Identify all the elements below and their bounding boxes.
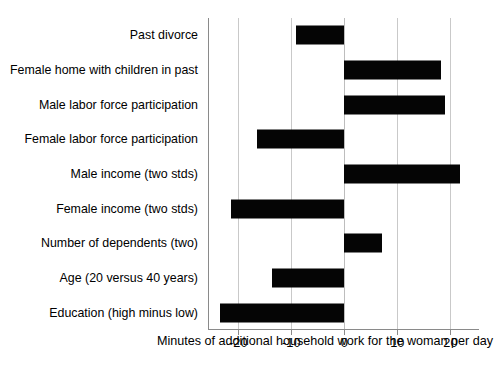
category-label: Age (20 versus 40 years) [60,272,198,285]
bar [272,269,344,288]
category-label: Male labor force participation [39,98,198,111]
bar [344,165,460,184]
bar [344,61,441,80]
bar [296,26,345,45]
category-label: Male income (two stds) [71,168,198,181]
bar [344,234,382,253]
plot-area: -20-1001020 [208,18,479,330]
category-label: Female labor force participation [24,133,198,146]
x-axis-title: Minutes of additional household work for… [208,334,479,349]
category-label: Number of dependents (two) [41,237,198,250]
category-axis-labels: Past divorceFemale home with children in… [0,18,203,330]
gridline [238,18,239,329]
bar [220,303,344,322]
category-label: Education (high minus low) [49,306,198,319]
x-axis-spine [208,329,479,330]
category-label: Female home with children in past [10,64,198,77]
category-label: Female income (two stds) [56,202,198,215]
bar [257,130,345,149]
category-label: Past divorce [130,29,198,42]
y-axis-spine [208,18,209,330]
bar [231,199,344,218]
x-axis-title-text: Minutes of additional household work for… [157,334,493,348]
bar [344,95,445,114]
